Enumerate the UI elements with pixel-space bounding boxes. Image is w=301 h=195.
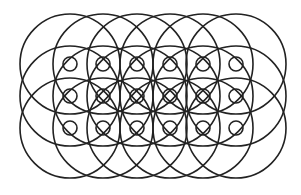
large-circle <box>120 78 220 178</box>
large-circles <box>20 14 286 178</box>
large-circle <box>53 46 153 146</box>
large-circle <box>87 14 187 114</box>
large-circle <box>87 46 187 146</box>
large-circle <box>120 14 220 114</box>
large-circle <box>153 78 253 178</box>
large-circle <box>53 14 153 114</box>
large-circle <box>153 14 253 114</box>
large-circle <box>186 78 286 178</box>
large-circle <box>186 46 286 146</box>
large-circle <box>20 78 120 178</box>
overlapping-circles-pattern <box>0 0 301 195</box>
large-circle <box>20 46 120 146</box>
large-circle <box>20 14 120 114</box>
large-circle <box>153 46 253 146</box>
large-circle <box>53 78 153 178</box>
large-circle <box>186 14 286 114</box>
large-circle <box>87 78 187 178</box>
large-circle <box>120 46 220 146</box>
